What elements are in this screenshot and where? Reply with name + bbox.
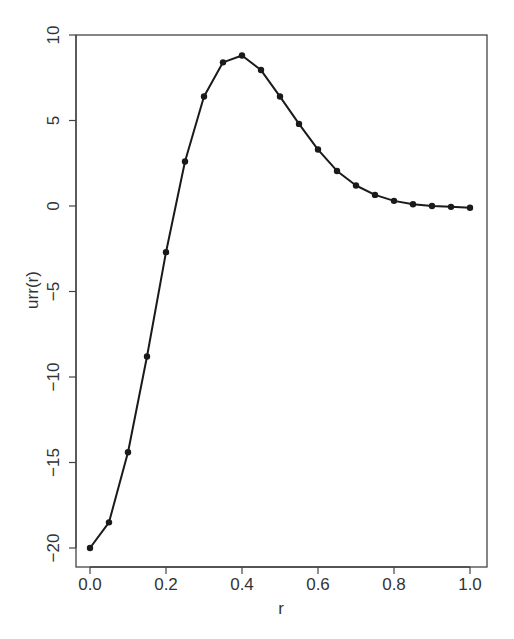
y-tick-label: 10	[44, 26, 63, 45]
data-point	[106, 519, 112, 525]
data-point	[429, 203, 435, 209]
y-tick-label: 5	[44, 116, 63, 125]
x-tick-label: 0.2	[154, 575, 178, 594]
data-line	[90, 56, 470, 548]
data-point	[201, 93, 207, 99]
y-tick-label: −15	[44, 448, 63, 477]
x-tick-label: 0.8	[382, 575, 406, 594]
y-tick-label: −10	[44, 363, 63, 392]
x-axis: 0.00.20.40.60.81.0	[78, 567, 482, 594]
data-point	[353, 182, 359, 188]
data-point	[467, 205, 473, 211]
data-point	[220, 59, 226, 65]
y-axis-label: urr(r)	[23, 271, 42, 309]
data-point	[334, 168, 340, 174]
data-point	[315, 146, 321, 152]
data-point	[410, 201, 416, 207]
x-tick-label: 0.4	[230, 575, 254, 594]
data-point	[125, 449, 131, 455]
x-tick-label: 1.0	[458, 575, 482, 594]
data-point	[163, 249, 169, 255]
y-tick-label: −20	[44, 534, 63, 563]
data-point	[277, 93, 283, 99]
data-point	[182, 158, 188, 164]
y-axis: −20−15−10−50510	[44, 26, 76, 563]
line-chart: 0.00.20.40.60.81.0 −20−15−10−50510 r urr…	[0, 0, 514, 639]
data-point	[239, 52, 245, 58]
data-point	[372, 192, 378, 198]
data-points	[87, 52, 473, 551]
data-point	[144, 353, 150, 359]
data-point	[87, 545, 93, 551]
y-tick-label: 0	[44, 201, 63, 210]
plot-frame	[76, 35, 487, 567]
data-point	[448, 204, 454, 210]
x-tick-label: 0.0	[78, 575, 102, 594]
data-point	[296, 121, 302, 127]
data-point	[258, 67, 264, 73]
y-tick-label: −5	[44, 282, 63, 301]
x-tick-label: 0.6	[306, 575, 330, 594]
x-axis-label: r	[278, 599, 284, 618]
data-point	[391, 198, 397, 204]
